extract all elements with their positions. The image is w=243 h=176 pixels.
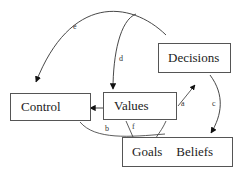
edge-e: [36, 11, 166, 82]
values-label: Values: [114, 98, 149, 114]
edge-d: [113, 14, 136, 89]
edge-label-b: b: [105, 125, 109, 133]
decisions-node: Decisions: [158, 43, 231, 73]
control-label: Control: [21, 99, 61, 115]
edge-label-a: a: [181, 100, 185, 108]
edge-label-c: c: [212, 100, 216, 108]
decisions-label: Decisions: [168, 50, 219, 66]
edge-b: [80, 122, 165, 136]
values-node: Values: [103, 92, 177, 120]
beliefs-label: Beliefs: [176, 144, 213, 160]
goals-beliefs-node: Goals Beliefs: [122, 137, 233, 167]
goals-label: Goals: [132, 144, 162, 160]
control-node: Control: [10, 93, 91, 121]
edge-label-e: e: [73, 23, 77, 31]
edge-label-d: d: [119, 55, 123, 63]
edge-label-f: f: [132, 123, 135, 131]
